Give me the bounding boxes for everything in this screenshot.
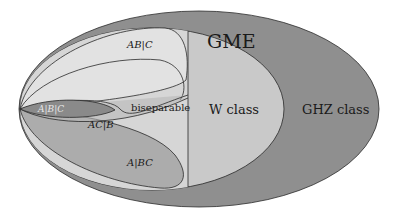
ghz-class-label: GHZ class	[302, 102, 369, 117]
entanglement-classes-diagram: GME GHZ class W class biseparable AB|C A…	[0, 0, 397, 219]
w-class-label: W class	[209, 102, 259, 117]
ac-b-label: AC|B	[87, 119, 114, 131]
biseparable-label: biseparable	[131, 102, 190, 113]
ab-c-label: AB|C	[126, 39, 153, 51]
a-b-c-label: A|B|C	[37, 104, 64, 115]
a-bc-label: A|BC	[126, 157, 153, 169]
gme-label: GME	[207, 30, 256, 52]
